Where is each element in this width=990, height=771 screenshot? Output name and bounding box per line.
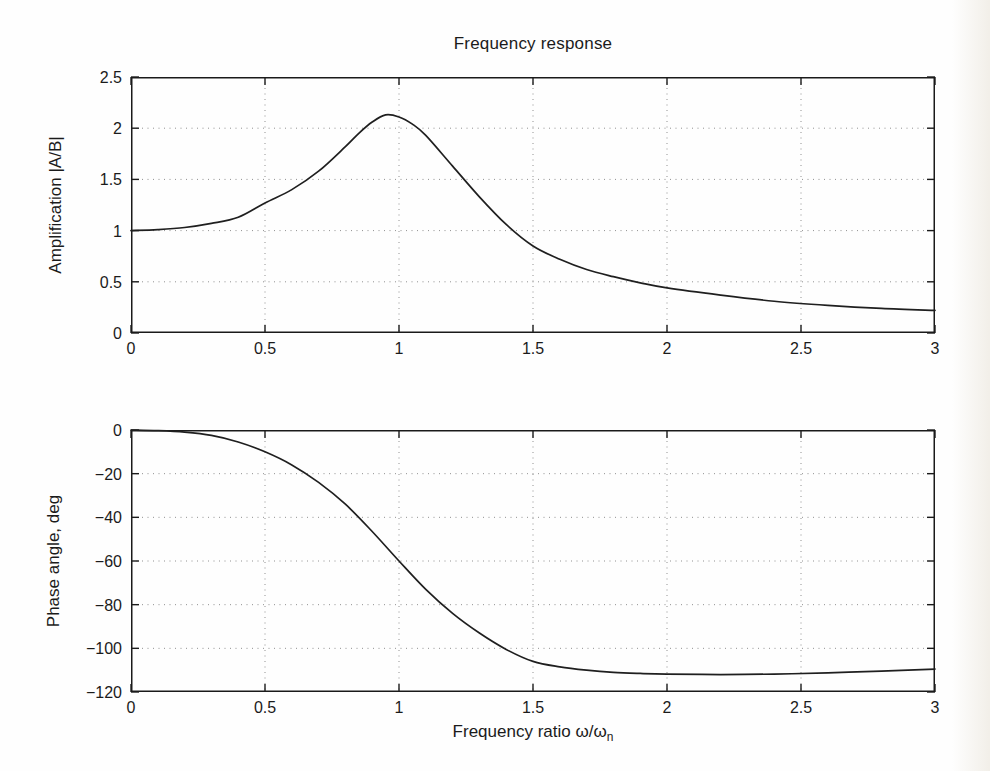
x-tick-label: 0.5 [254,340,276,357]
x-tick-label: 1.5 [522,340,544,357]
frequency-response-figure: Frequency response Amplification |A/B| P… [0,0,990,771]
x-tick-label: 2.5 [790,340,812,357]
y-tick-label: −120 [58,684,122,701]
y-tick-label: 0.5 [58,274,122,291]
y-tick-label: 1 [58,223,122,240]
x-tick-label: 3 [931,340,940,357]
y-tick-label: −80 [58,597,122,614]
x-tick-label: 2.5 [790,699,812,716]
y-tick-label: −20 [58,466,122,483]
x-tick-label: 0 [127,340,136,357]
y-tick-label: −60 [58,553,122,570]
x-tick-label: 0.5 [254,699,276,716]
frequency-ratio-axis-label: Frequency ratio ω/ωn [131,722,935,744]
scanned-page-edge-shading [952,0,990,771]
chart-title: Frequency response [131,34,935,54]
y-tick-label: 1.5 [58,171,122,188]
frequency-ratio-label-text: Frequency ratio ω/ω [453,722,607,741]
phase-plot [131,430,935,692]
x-tick-label: 1 [395,699,404,716]
x-tick-label: 3 [931,699,940,716]
plot-canvas [131,77,935,333]
x-tick-label: 0 [127,699,136,716]
y-tick-label: 2 [58,120,122,137]
y-tick-label: 2.5 [58,69,122,86]
plot-canvas [131,430,935,692]
omega-n-subscript: n [607,730,614,744]
x-tick-label: 2 [663,699,672,716]
x-tick-label: 2 [663,340,672,357]
amplification-axis-label: Amplification |A/B| [46,45,66,365]
y-tick-label: 0 [58,422,122,439]
y-tick-label: 0 [58,325,122,342]
phase-angle-curve [131,430,935,675]
y-tick-label: −40 [58,509,122,526]
y-tick-label: −100 [58,640,122,657]
x-tick-label: 1 [395,340,404,357]
amplification-plot [131,77,935,333]
x-tick-label: 1.5 [522,699,544,716]
